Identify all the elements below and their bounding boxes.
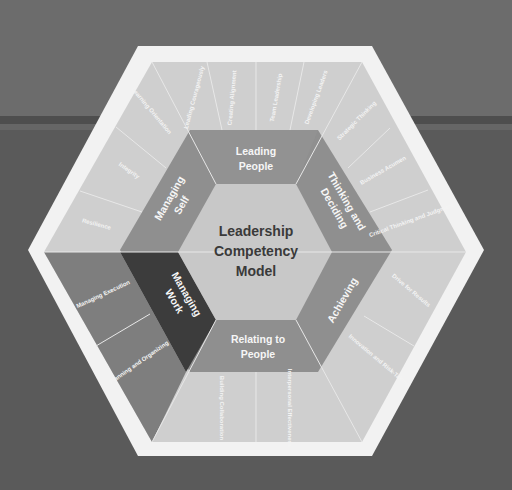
svg-text:People: People [241,348,276,360]
center-title-line3: Model [236,263,276,279]
svg-text:People: People [239,160,274,172]
svg-text:Leading: Leading [236,145,276,157]
center-title-line2: Competency [214,243,298,259]
center-title-line1: Leadership [219,223,294,239]
competency-hexagon-diagram: Leadership Competency Model Leading Peop… [0,0,512,490]
competency-building-collaboration[interactable]: Building Collaboration [219,376,225,441]
competency-interpersonal-effectiveness[interactable]: Interpersonal Effectiveness [287,369,293,448]
svg-text:Relating to: Relating to [231,333,285,345]
